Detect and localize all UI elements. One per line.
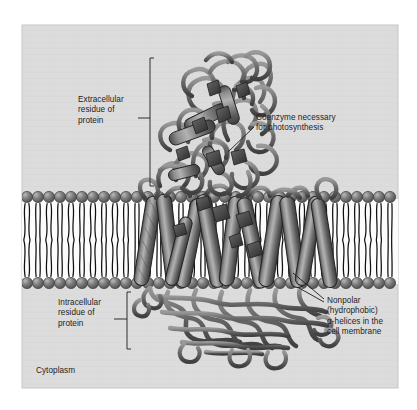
lipid-head <box>274 277 285 288</box>
nonpolar-helices-label: Nonpolar (hydrophobic) α-helices in the … <box>327 296 383 338</box>
diagram-figure: Extracellular residue of protein Coenzym… <box>0 0 417 410</box>
lipid-head <box>153 277 164 288</box>
lipid-head <box>65 191 76 202</box>
lipid-head <box>384 191 395 202</box>
lipid-head <box>373 191 384 202</box>
lipid-head <box>21 277 32 288</box>
extracellular-residue-label: Extracellular residue of protein <box>78 95 124 126</box>
lipid-head <box>373 277 384 288</box>
lipid-tail <box>381 240 382 276</box>
lipid-head <box>54 277 65 288</box>
cytoplasm-label: Cytoplasm <box>36 366 75 376</box>
lipid-head <box>87 277 98 288</box>
lipid-head <box>54 191 65 202</box>
lipid-head <box>32 277 43 288</box>
lipid-head <box>252 191 263 202</box>
lipid-tail <box>354 204 355 240</box>
lipid-head <box>120 277 131 288</box>
intracellular-residue-label: Intracellular residue of protein <box>58 298 101 329</box>
lipid-head <box>351 277 362 288</box>
coenzyme-label: Coenzyme necessary for photosynthesis <box>256 113 336 134</box>
lipid-head <box>32 191 43 202</box>
lipid-tail <box>381 204 382 240</box>
lipid-head <box>340 191 351 202</box>
lipid-head <box>98 191 109 202</box>
lipid-tail <box>128 204 129 240</box>
lipid-tail <box>58 240 59 276</box>
lipid-tail <box>354 240 355 276</box>
lipid-tail <box>106 204 107 240</box>
lipid-tail <box>101 240 102 276</box>
lipid-tail <box>337 204 338 240</box>
lipid-head <box>76 191 87 202</box>
lipid-tail <box>333 204 334 240</box>
lipid-tail <box>123 240 124 276</box>
lipid-tail <box>376 204 377 240</box>
lipid-head <box>109 277 120 288</box>
lipid-head <box>340 277 351 288</box>
lipid-head <box>384 277 395 288</box>
lipid-tail <box>376 240 377 276</box>
lipid-tail <box>123 204 124 240</box>
lipid-head <box>362 191 373 202</box>
lipid-tail <box>359 204 360 240</box>
membrane-protein-diagram <box>0 0 417 410</box>
lipid-tail <box>62 240 63 276</box>
lipid-head <box>43 277 54 288</box>
lipid-head <box>98 277 109 288</box>
lipid-head <box>120 191 131 202</box>
lipid-tail <box>80 204 81 240</box>
lipid-head <box>21 191 32 202</box>
lipid-tail <box>84 240 85 276</box>
lipid-head <box>197 277 208 288</box>
lipid-tail <box>101 204 102 240</box>
lipid-head <box>241 277 252 288</box>
lipid-tail <box>80 240 81 276</box>
lipid-tail <box>128 240 129 276</box>
lipid-head <box>65 277 76 288</box>
lipid-tail <box>260 204 261 240</box>
lipid-tail <box>359 240 360 276</box>
lipid-tail <box>58 204 59 240</box>
lipid-head <box>362 277 373 288</box>
lipid-head <box>76 277 87 288</box>
lipid-head <box>109 191 120 202</box>
lipid-tail <box>84 204 85 240</box>
lipid-tail <box>337 240 338 276</box>
lipid-head <box>43 191 54 202</box>
lipid-head <box>351 191 362 202</box>
lipid-tail <box>62 204 63 240</box>
lipid-head <box>87 191 98 202</box>
lipid-tail <box>106 240 107 276</box>
